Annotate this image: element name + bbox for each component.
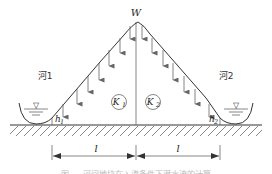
recharge-arrows-left (63, 26, 130, 117)
k2-badge: K 2 (146, 95, 161, 110)
river-right-label: 河2 (219, 70, 234, 81)
groundwater-mound-diagram: ▽ ▽ W 河1 河2 K 1 (0, 0, 272, 174)
dimension-l-left: l (52, 143, 135, 160)
water-level-icon-right: ▽ (233, 101, 240, 110)
k1-badge: K 1 (112, 95, 127, 110)
svg-text:l: l (176, 143, 179, 154)
water-level-icon-left: ▽ (33, 101, 40, 110)
svg-text:1: 1 (60, 118, 64, 126)
svg-text:l: l (94, 143, 97, 154)
svg-text:2: 2 (213, 118, 218, 126)
ground-base (10, 125, 262, 136)
dimension-l-right: l (137, 143, 220, 160)
svg-text:K: K (146, 97, 155, 107)
svg-text:1: 1 (122, 101, 126, 109)
river-left-label: 河1 (38, 70, 53, 81)
svg-text:K: K (112, 97, 121, 107)
river-left-channel: ▽ (19, 101, 52, 124)
recharge-label-w: W (131, 7, 142, 18)
h2-label: h 2 (209, 114, 218, 126)
figure-caption: 图 — 河间地块在入渗条件下潜水流的计算 (61, 169, 210, 174)
river-right-channel: ▽ (220, 101, 253, 124)
svg-text:2: 2 (155, 101, 160, 109)
